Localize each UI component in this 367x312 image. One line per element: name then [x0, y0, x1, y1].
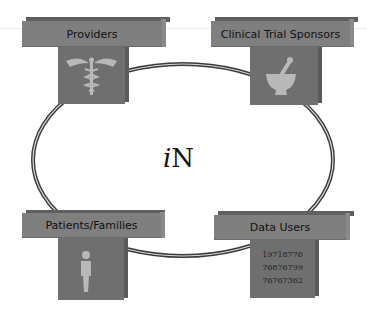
sponsors-label: Clinical Trial Sponsors [211, 21, 350, 47]
person-icon [58, 238, 124, 300]
center-logo: iN [163, 143, 194, 173]
patients-label: Patients/Families [22, 213, 161, 238]
providers-box [58, 47, 125, 104]
data-number: 76876799 [250, 261, 315, 274]
caduceus-icon [58, 47, 125, 104]
data-number: 19718776 [250, 248, 315, 261]
data-users-label: Data Users [214, 215, 346, 240]
sponsors-box [250, 47, 318, 105]
data-number: 76767362 [250, 274, 315, 287]
mortar-pestle-icon [250, 47, 318, 105]
patients-box [58, 238, 124, 300]
providers-label: Providers [22, 21, 162, 47]
logo-text: N [171, 143, 194, 173]
data-users-box: 19718776 76876799 76767362 [250, 240, 315, 298]
